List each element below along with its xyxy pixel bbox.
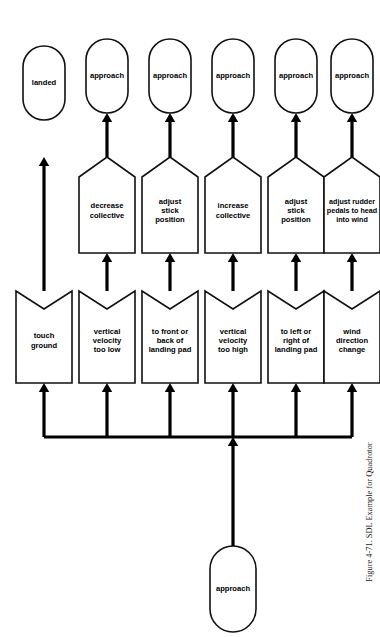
trigger-to-result-arrow (39, 157, 49, 291)
action-output-label: decreasecollective (90, 201, 125, 219)
flow-row: verticalvelocitytoo lowdecreasecollectiv… (79, 39, 135, 437)
start-state-label: approach (216, 584, 251, 593)
action-to-result-arrow (165, 113, 175, 157)
result-state-label: approach (153, 71, 188, 80)
result-state-node[interactable]: approach (331, 39, 373, 113)
spine-to-trigger-arrow (228, 383, 238, 437)
action-output-node[interactable]: adjuststickposition (142, 157, 198, 253)
action-output-node[interactable]: adjust rudderpedals to headinto wind (324, 157, 380, 253)
sdl-flowchart-diagram: approachtouchgroundlandedverticalvelocit… (0, 0, 380, 637)
trigger-input-node[interactable]: winddirectionchange (324, 291, 380, 383)
action-to-result-arrow (102, 113, 112, 157)
flow-row: verticalvelocitytoo highincreasecollecti… (205, 39, 261, 437)
trigger-to-action-arrow (102, 253, 112, 291)
action-to-result-arrow (228, 113, 238, 157)
action-output-node[interactable]: increasecollective (205, 157, 261, 253)
trigger-input-label: touchground (31, 331, 58, 349)
trigger-input-node[interactable]: verticalvelocitytoo high (205, 291, 261, 383)
result-state-label: approach (335, 71, 370, 80)
spine-to-trigger-arrow (39, 383, 49, 437)
trigger-input-node[interactable]: to front orback oflanding pad (142, 291, 198, 383)
result-state-node[interactable]: landed (23, 46, 65, 120)
trigger-to-action-arrow (165, 253, 175, 291)
flow-row: to front orback oflanding padadjuststick… (142, 39, 198, 437)
action-output-node[interactable]: decreasecollective (79, 157, 135, 253)
result-state-node[interactable]: approach (86, 39, 128, 113)
spine-to-trigger-arrow (102, 383, 112, 437)
trigger-to-action-arrow (347, 253, 357, 291)
figure-caption: Figure 4-71. SDL Example for Quadrotor (365, 442, 374, 581)
trigger-input-label: verticalvelocitytoo high (218, 327, 248, 355)
trigger-input-label: verticalvelocitytoo low (93, 327, 122, 355)
trigger-input-node[interactable]: verticalvelocitytoo low (79, 291, 135, 383)
figure-caption-text: Figure 4-71. SDL Example for Quadrotor (365, 442, 374, 581)
result-state-node[interactable]: approach (149, 39, 191, 113)
spine-to-trigger-arrow (291, 383, 301, 437)
action-output-node[interactable]: adjuststickposition (268, 157, 324, 253)
result-state-label: approach (279, 71, 314, 80)
figure-container: approachtouchgroundlandedverticalvelocit… (0, 0, 380, 637)
start-state-approach[interactable]: approach (210, 546, 256, 632)
spine-to-trigger-arrow (165, 383, 175, 437)
result-state-label: landed (32, 78, 57, 87)
trigger-input-node[interactable]: to left orright oflanding pad (268, 291, 324, 383)
start-to-spine-arrow (228, 437, 238, 546)
trigger-to-action-arrow (291, 253, 301, 291)
start-to-spine-connector (228, 437, 238, 546)
flow-row: winddirectionchangeadjust rudderpedals t… (324, 39, 380, 437)
trigger-to-action-arrow (228, 253, 238, 291)
spine-to-trigger-arrow (347, 383, 357, 437)
result-state-node[interactable]: approach (275, 39, 317, 113)
flow-row: touchgroundlanded (16, 46, 72, 437)
action-to-result-arrow (347, 113, 357, 157)
action-to-result-arrow (291, 113, 301, 157)
action-output-label: increasecollective (216, 201, 251, 219)
trigger-input-node[interactable]: touchground (16, 291, 72, 383)
diagram-root: approachtouchgroundlandedverticalvelocit… (16, 39, 380, 632)
result-state-node[interactable]: approach (212, 39, 254, 113)
flow-row: to left orright oflanding padadjuststick… (268, 39, 324, 437)
result-state-label: approach (216, 71, 251, 80)
result-state-label: approach (90, 71, 125, 80)
